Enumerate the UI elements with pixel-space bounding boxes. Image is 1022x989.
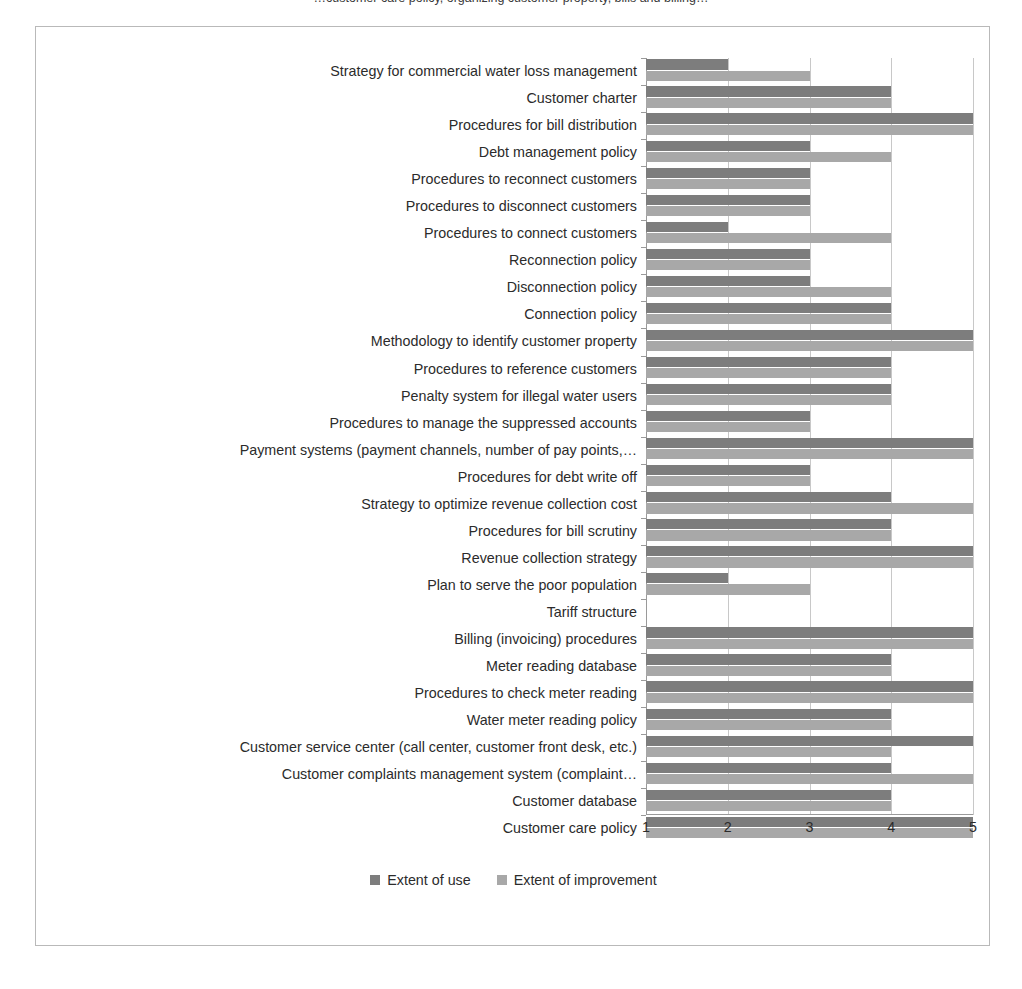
category-label: Plan to serve the poor population (36, 572, 644, 599)
category-label: Procedures for debt write off (36, 464, 644, 491)
bar-row (646, 328, 973, 355)
category-label: Strategy to optimize revenue collection … (36, 491, 644, 518)
category-label: Procedures to disconnect customers (36, 193, 644, 220)
category-label: Debt management policy (36, 139, 644, 166)
bars-layer (646, 58, 973, 815)
bar-row (646, 653, 973, 680)
bar-extent-of-use (646, 86, 891, 96)
category-baseline (646, 814, 973, 815)
bar-extent-of-use (646, 303, 891, 313)
chart-plot-wrapper: Strategy for commercial water loss manag… (36, 27, 991, 947)
category-label: Meter reading database (36, 653, 644, 680)
bar-row (646, 599, 973, 626)
bar-extent-of-improvement (646, 206, 810, 216)
bar-row (646, 112, 973, 139)
bar-row (646, 788, 973, 815)
bar-extent-of-improvement (646, 801, 891, 811)
category-label: Reconnection policy (36, 247, 644, 274)
bar-extent-of-use (646, 195, 810, 205)
bar-extent-of-use (646, 222, 728, 232)
bar-row (646, 220, 973, 247)
bar-extent-of-use (646, 411, 810, 421)
bar-extent-of-use (646, 357, 891, 367)
bar-extent-of-use (646, 709, 891, 719)
bar-extent-of-improvement (646, 639, 973, 649)
bar-extent-of-use (646, 519, 891, 529)
bar-extent-of-use (646, 113, 973, 123)
bar-extent-of-use (646, 330, 973, 340)
category-label: Payment systems (payment channels, numbe… (36, 437, 644, 464)
category-label: Strategy for commercial water loss manag… (36, 58, 644, 85)
bar-row (646, 301, 973, 328)
bar-row (646, 626, 973, 653)
category-label: Customer care policy (36, 815, 644, 842)
category-label: Customer database (36, 788, 644, 815)
bar-extent-of-use (646, 59, 728, 69)
value-axis-tick-label: 3 (806, 819, 814, 835)
bar-extent-of-use (646, 790, 891, 800)
bar-row (646, 707, 973, 734)
legend-label: Extent of improvement (514, 872, 657, 888)
value-axis-tick-label: 1 (642, 819, 650, 835)
bar-extent-of-use (646, 249, 810, 259)
category-label: Disconnection policy (36, 274, 644, 301)
bar-extent-of-improvement (646, 314, 891, 324)
legend-item-use[interactable]: Extent of use (370, 872, 470, 888)
bar-extent-of-improvement (646, 260, 810, 270)
bar-extent-of-improvement (646, 584, 810, 594)
bar-extent-of-improvement (646, 341, 973, 351)
bar-row (646, 734, 973, 761)
category-label: Procedures to reconnect customers (36, 166, 644, 193)
bar-row (646, 58, 973, 85)
bar-row (646, 680, 973, 707)
bar-extent-of-use (646, 627, 973, 637)
bar-row (646, 247, 973, 274)
bar-row (646, 545, 973, 572)
category-label: Procedures for bill scrutiny (36, 518, 644, 545)
value-axis-tick-label: 4 (887, 819, 895, 835)
bar-extent-of-improvement (646, 449, 973, 459)
category-label: Procedures to connect customers (36, 220, 644, 247)
bar-row (646, 572, 973, 599)
bar-row (646, 166, 973, 193)
bar-extent-of-use (646, 654, 891, 664)
legend-label: Extent of use (387, 872, 470, 888)
bar-extent-of-improvement (646, 125, 973, 135)
value-axis-tick-label: 2 (724, 819, 732, 835)
bar-extent-of-improvement (646, 666, 891, 676)
category-label: Customer service center (call center, cu… (36, 734, 644, 761)
bar-row (646, 491, 973, 518)
category-label: Revenue collection strategy (36, 545, 644, 572)
bar-extent-of-improvement (646, 368, 891, 378)
bar-extent-of-improvement (646, 774, 973, 784)
bar-row (646, 410, 973, 437)
legend-swatch-icon (497, 875, 507, 885)
category-label: Procedures to reference customers (36, 356, 644, 383)
bar-extent-of-improvement (646, 720, 891, 730)
bar-extent-of-use (646, 384, 891, 394)
bar-extent-of-improvement (646, 233, 891, 243)
bar-extent-of-improvement (646, 693, 973, 703)
bar-extent-of-improvement (646, 503, 973, 513)
bar-row (646, 274, 973, 301)
chart-frame: Strategy for commercial water loss manag… (35, 26, 990, 946)
category-label: Customer complaints management system (c… (36, 761, 644, 788)
bar-extent-of-use (646, 276, 810, 286)
category-label: Procedures for bill distribution (36, 112, 644, 139)
category-label: Penalty system for illegal water users (36, 383, 644, 410)
value-axis-tick-label: 5 (969, 819, 977, 835)
bar-extent-of-use (646, 736, 973, 746)
bar-row (646, 464, 973, 491)
bar-row (646, 761, 973, 788)
category-label: Procedures to manage the suppressed acco… (36, 410, 644, 437)
bar-extent-of-use (646, 465, 810, 475)
legend-item-improve[interactable]: Extent of improvement (497, 872, 657, 888)
bar-extent-of-improvement (646, 152, 891, 162)
bar-extent-of-improvement (646, 71, 810, 81)
bar-extent-of-use (646, 573, 728, 583)
bar-extent-of-use (646, 141, 810, 151)
bar-row (646, 139, 973, 166)
bar-row (646, 383, 973, 410)
bar-extent-of-use (646, 492, 891, 502)
category-tick (641, 599, 646, 600)
